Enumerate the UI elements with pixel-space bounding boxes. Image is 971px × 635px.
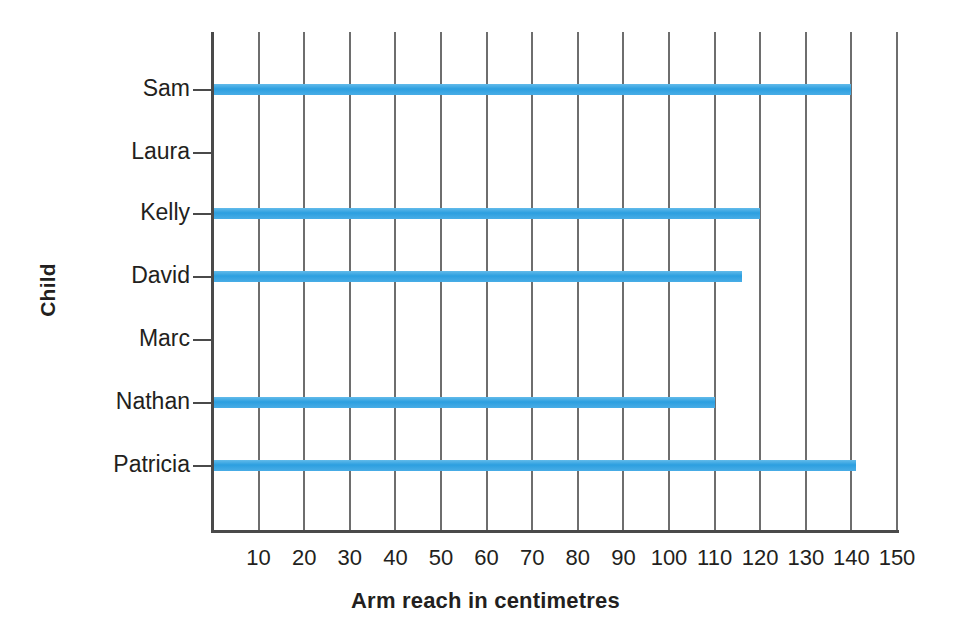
bar-chart: Child SamLauraKellyDavidMarcNathanPatric… (0, 0, 971, 635)
plot-area (213, 32, 897, 530)
x-tick-label-60: 60 (474, 545, 498, 571)
x-tick-label-10: 10 (246, 545, 270, 571)
y-tick-patricia (193, 465, 213, 467)
x-tick-label-120: 120 (742, 545, 779, 571)
gridline-120 (759, 32, 761, 530)
x-tick-label-150: 150 (879, 545, 916, 571)
gridline-140 (850, 32, 852, 530)
y-axis-label-patricia: Patricia (113, 453, 190, 476)
y-axis-line (211, 32, 214, 532)
x-tick-label-20: 20 (292, 545, 316, 571)
x-tick-label-50: 50 (429, 545, 453, 571)
x-tick-label-130: 130 (787, 545, 824, 571)
bar-kelly (213, 208, 760, 219)
y-axis-label-kelly: Kelly (140, 201, 190, 224)
x-tick-label-80: 80 (566, 545, 590, 571)
y-axis-label-marc: Marc (139, 327, 190, 350)
x-tick-label-140: 140 (833, 545, 870, 571)
x-tick-label-40: 40 (383, 545, 407, 571)
x-axis-title-text: Arm reach in centimetres (351, 588, 620, 613)
y-tick-kelly (193, 213, 213, 215)
x-tick-label-110: 110 (697, 545, 732, 571)
x-tick-label-70: 70 (520, 545, 544, 571)
bar-nathan (213, 397, 715, 408)
y-tick-sam (193, 89, 213, 91)
bar-david (213, 271, 742, 282)
y-tick-david (193, 276, 213, 278)
y-axis-label-sam: Sam (143, 77, 190, 100)
y-axis-category-labels: SamLauraKellyDavidMarcNathanPatricia (80, 0, 190, 635)
bar-patricia (213, 460, 856, 471)
x-tick-label-100: 100 (651, 545, 688, 571)
x-axis-title: Arm reach in centimetres (0, 588, 971, 614)
y-axis-label-laura: Laura (131, 140, 190, 163)
y-tick-laura (193, 152, 213, 154)
y-tick-marc (193, 339, 213, 341)
y-axis-label-david: David (131, 264, 190, 287)
x-tick-label-30: 30 (338, 545, 362, 571)
y-axis-label-nathan: Nathan (116, 390, 190, 413)
x-tick-label-90: 90 (611, 545, 635, 571)
gridline-130 (805, 32, 807, 530)
bar-sam (213, 84, 851, 95)
gridline-150 (896, 32, 898, 530)
y-tick-nathan (193, 402, 213, 404)
x-axis-line (211, 530, 899, 533)
y-axis-title-text: Child (36, 263, 60, 317)
